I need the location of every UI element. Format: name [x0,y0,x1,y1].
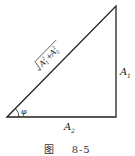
angle-arc [15,109,19,118]
vertical-leg-label: A 1 [119,66,131,79]
figure-caption: 图 8-5 [0,141,135,156]
horizontal-leg-label: A 2 [63,121,75,134]
angle-label: φ [21,107,27,116]
svg-text:2: 2 [70,127,75,134]
figure-number: 8-5 [72,144,91,155]
triangle-shape [7,6,116,117]
svg-text:A: A [63,121,71,132]
svg-text:A: A [119,66,127,77]
triangle-diagram: A 1 2 + A 2 2 φ A 1 A 2 [0,0,135,156]
hypotenuse-label: A 1 2 + A 2 2 [32,40,64,73]
figure-word: 图 [44,144,55,155]
svg-text:1: 1 [127,72,131,79]
